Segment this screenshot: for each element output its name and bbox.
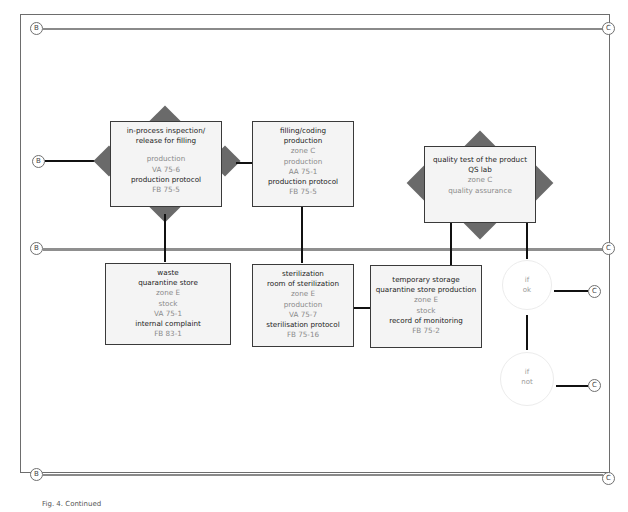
link-inspection-filling <box>236 162 252 164</box>
box-line: QS lab <box>425 165 535 175</box>
box-quality: quality test of the product QS lab zone … <box>424 146 536 223</box>
box-line: FB 75-16 <box>253 330 353 340</box>
box-line: zone E <box>106 288 230 298</box>
main-bus <box>43 248 603 251</box>
box-line: VA 75-7 <box>253 310 353 320</box>
box-line: temporary storage <box>371 275 481 285</box>
link-inspection-waste <box>164 214 166 262</box>
decision-label: if <box>503 275 551 285</box>
box-line: FB 75-2 <box>371 326 481 336</box>
box-sterilization: sterilization room of sterilization zone… <box>252 264 354 347</box>
link-filling-sterilization <box>301 207 303 263</box>
box-line: quality test of the product <box>425 155 535 165</box>
box-line: FB 75-5 <box>253 187 353 197</box>
box-line: production <box>253 157 353 167</box>
decision-not: if not <box>500 352 554 406</box>
box-line: internal complaint <box>106 319 230 329</box>
box-line: quality assurance <box>425 186 535 196</box>
box-line: zone E <box>253 289 353 299</box>
box-line: zone C <box>425 175 535 185</box>
box-line: stock <box>371 306 481 316</box>
connector-c-bottom: C <box>602 472 615 485</box>
connector-c-top: C <box>602 22 615 35</box>
box-storage: temporary storage quarantine store produ… <box>370 265 482 348</box>
box-line: quarantine store production <box>371 285 481 295</box>
box-line: production <box>253 300 353 310</box>
decision-label: not <box>501 377 553 387</box>
box-line: sterilisation protocol <box>253 320 353 330</box>
box-line: stock <box>106 299 230 309</box>
top-line <box>43 28 603 30</box>
box-line: FB 83-1 <box>106 329 230 339</box>
connector-b-inlet: B <box>32 155 45 168</box>
decision-label: if <box>501 367 553 377</box>
box-inspection: in-process inspection/ release for filli… <box>110 121 222 207</box>
box-line: VA 75-6 <box>111 165 221 175</box>
box-line: zone C <box>253 146 353 156</box>
connector-c-ok: C <box>588 285 601 298</box>
link-quality-decision <box>526 223 528 259</box>
box-line: production <box>253 136 353 146</box>
box-line: room of sterilization <box>253 279 353 289</box>
connector-c-not: C <box>588 379 601 392</box>
box-line: VA 75-1 <box>106 309 230 319</box>
decision-ok: if ok <box>502 260 552 310</box>
box-line: FB 75-5 <box>111 185 221 195</box>
connector-c-bus: C <box>602 242 615 255</box>
link-sterilization-storage <box>354 307 370 309</box>
box-line: quarantine store <box>106 278 230 288</box>
figure-caption: Fig. 4. Continued <box>42 500 101 508</box>
box-line: production protocol <box>253 177 353 187</box>
link-not-out <box>556 385 588 387</box>
connector-b-bottom: B <box>30 468 43 481</box>
link-ok-out <box>554 290 588 292</box>
box-filling: filling/coding production zone C product… <box>252 121 354 207</box>
box-line: release for filling <box>111 136 221 146</box>
box-line: zone E <box>371 295 481 305</box>
bottom-line <box>43 474 603 476</box>
box-waste: waste quarantine store zone E stock VA 7… <box>105 263 231 345</box>
box-line: sterilization <box>253 269 353 279</box>
box-line: in-process inspection/ <box>111 126 221 136</box>
link-quality-storage <box>450 223 452 265</box>
box-line: AA 75-1 <box>253 167 353 177</box>
box-line: record of monitoring <box>371 316 481 326</box>
box-line: production protocol <box>111 175 221 185</box>
decision-label: ok <box>503 285 551 295</box>
box-line: filling/coding <box>253 126 353 136</box>
connector-b-top: B <box>30 22 43 35</box>
box-line: production <box>111 154 221 164</box>
connector-b-bus: B <box>30 242 43 255</box>
box-line: waste <box>106 268 230 278</box>
link-ok-not <box>526 315 528 350</box>
